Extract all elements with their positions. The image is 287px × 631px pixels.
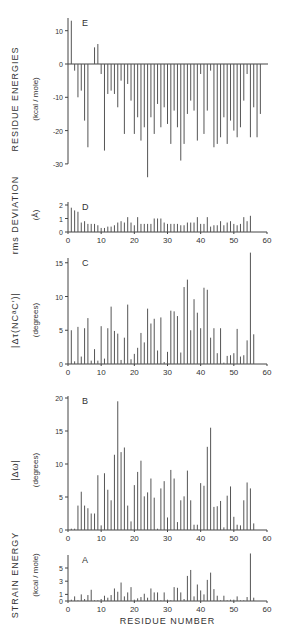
x-tick-label: 20 — [130, 368, 139, 377]
y-tick-label: 1 — [59, 591, 63, 598]
x-tick-label: 0 — [66, 368, 71, 377]
y-tick-label: 15 — [55, 428, 63, 435]
y-tick-label: -30 — [53, 161, 63, 168]
y-tick-label: 1 — [59, 216, 63, 223]
y-tick-label: 0 — [59, 61, 63, 68]
y-axis-units: (degrees) — [31, 453, 40, 488]
y-axis-label: RESIDUE ENERGIES — [10, 46, 20, 151]
x-tick-label: 20 — [130, 534, 139, 543]
x-tick-label: 30 — [163, 368, 172, 377]
y-axis-units: (kcal / mole) — [31, 77, 40, 121]
x-tick-label: 30 — [163, 236, 172, 245]
y-tick-label: 5 — [59, 494, 63, 501]
y-axis-label: |Δω| — [10, 459, 20, 481]
y-tick-label: -10 — [53, 94, 63, 101]
y-tick-label: 10 — [55, 294, 63, 301]
x-tick-label: 30 — [163, 605, 172, 614]
x-tick-label: 40 — [196, 236, 205, 245]
x-tick-label: 20 — [130, 605, 139, 614]
x-tick-label: 10 — [97, 605, 106, 614]
y-axis-units: (Å) — [31, 209, 40, 220]
x-tick-label: 20 — [130, 236, 139, 245]
panel-letter: E — [82, 18, 88, 28]
x-tick-label: 60 — [263, 236, 272, 245]
x-axis-title: RESIDUE NUMBER — [120, 616, 216, 626]
y-tick-label: -20 — [53, 128, 63, 135]
x-tick-label: 60 — [263, 605, 272, 614]
x-tick-label: 50 — [229, 368, 238, 377]
y-tick-label: 10 — [55, 461, 63, 468]
x-tick-label: 60 — [263, 534, 272, 543]
x-tick-label: 50 — [229, 236, 238, 245]
y-tick-label: 0 — [59, 361, 63, 368]
x-tick-label: 10 — [97, 236, 106, 245]
x-tick-label: 0 — [66, 534, 71, 543]
panel-d: 0120102030405060Drms DEVIATION(Å) — [10, 176, 272, 254]
y-tick-label: 0 — [59, 229, 63, 236]
x-tick-label: 30 — [163, 534, 172, 543]
y-axis-label: rms DEVIATION — [10, 176, 20, 254]
x-tick-label: 40 — [196, 605, 205, 614]
panel-letter: C — [82, 258, 89, 268]
panel-b: 051015200102030405060B|Δω|(degrees) — [10, 395, 272, 543]
y-axis-label: |Δτ(NCᵃC′)| — [10, 292, 20, 348]
x-tick-label: 40 — [196, 534, 205, 543]
panel-letter: A — [82, 555, 88, 565]
y-tick-label: 2 — [59, 202, 63, 209]
x-tick-label: 50 — [229, 534, 238, 543]
y-tick-label: 3 — [59, 578, 63, 585]
y-tick-label: 0 — [59, 527, 63, 534]
y-tick-label: 5 — [59, 327, 63, 334]
y-tick-label: 20 — [55, 395, 63, 402]
y-tick-label: 10 — [55, 28, 63, 35]
x-tick-label: 10 — [97, 534, 106, 543]
figure: 100-10-20-30ERESIDUE ENERGIES(kcal / mol… — [0, 0, 287, 631]
panel-e: 100-10-20-30ERESIDUE ENERGIES(kcal / mol… — [10, 18, 268, 177]
x-tick-label: 40 — [196, 368, 205, 377]
x-tick-label: 60 — [263, 368, 272, 377]
y-axis-units: (degrees) — [31, 303, 40, 338]
x-tick-label: 50 — [229, 605, 238, 614]
panel-letter: B — [82, 396, 88, 406]
y-tick-label: 0 — [59, 598, 63, 605]
x-tick-label: 0 — [66, 236, 71, 245]
y-axis-units: (kcal / mole) — [31, 553, 40, 597]
y-axis-label: STRAIN ENERGY — [10, 532, 20, 619]
y-tick-label: 5 — [59, 565, 63, 572]
panel-letter: D — [82, 202, 89, 212]
y-tick-label: 15 — [55, 260, 63, 267]
panel-c: 0510150102030405060C|Δτ(NCᵃC′)|(degrees) — [10, 253, 272, 377]
x-tick-label: 0 — [66, 605, 71, 614]
x-tick-label: 10 — [97, 368, 106, 377]
panel-a: 01350102030405060ASTRAIN ENERGY(kcal / m… — [10, 532, 272, 619]
